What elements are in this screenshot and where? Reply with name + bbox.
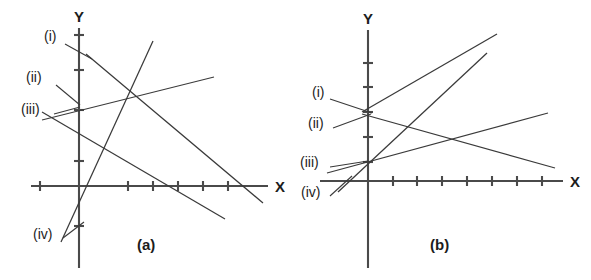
panel-b-leader-2 <box>333 114 371 128</box>
panel-b-x-axis-label: X <box>570 173 580 190</box>
panel-b-y-axis-label: Y <box>363 10 373 27</box>
panel-b-leader-1 <box>330 99 372 113</box>
panel-a-caption: (a) <box>137 236 155 253</box>
panel-b-line-label-4: (iv) <box>301 184 320 200</box>
figure-canvas: XY(i)(ii)(iii)(iv)XY(i)(ii)(iii)(iv) <box>0 0 591 280</box>
panel-a-line-label-2: (ii) <box>26 69 42 85</box>
panel-a-x-axis-label: X <box>275 178 285 195</box>
panel-b-line-3 <box>327 113 548 173</box>
panel-a-line-2 <box>42 77 214 120</box>
panel-a-line-label-4: (iv) <box>33 226 52 242</box>
panel-a-leader-2 <box>56 85 80 105</box>
line-graph-figure: XY(i)(ii)(iii)(iv)XY(i)(ii)(iii)(iv) (a)… <box>0 0 591 280</box>
panel-b-line-2 <box>362 34 497 112</box>
panel-b-line-label-2: (ii) <box>308 115 324 131</box>
panel-a-line-3 <box>42 112 225 219</box>
panel-b-line-4 <box>338 53 487 192</box>
panel-b-line-1 <box>362 114 555 168</box>
panel-a-y-axis-label: Y <box>74 8 84 25</box>
panel-a-line-label-3: (iii) <box>21 101 40 117</box>
panel-a-line-label-1: (i) <box>44 28 56 44</box>
panel-b-caption: (b) <box>430 236 449 253</box>
panel-b-line-label-3: (iii) <box>300 154 319 170</box>
panel-b-leader-4 <box>330 176 352 196</box>
panel-b-line-label-1: (i) <box>312 84 324 100</box>
